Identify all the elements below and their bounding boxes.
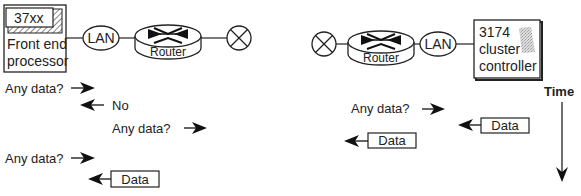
router-left: Router bbox=[135, 25, 201, 59]
front-end-processor: 37xx Front end processor bbox=[4, 5, 69, 72]
wan-endpoint-left-icon bbox=[227, 26, 251, 50]
right-msg-2-text: Data bbox=[491, 118, 519, 133]
controller-line2: cluster bbox=[479, 41, 521, 57]
arrow-right-icon bbox=[422, 103, 445, 115]
arrow-left-icon bbox=[344, 135, 368, 147]
arrow-left-icon bbox=[88, 173, 111, 185]
diagram-canvas: 37xx Front end processor LAN Router bbox=[0, 0, 581, 196]
time-label: Time bbox=[544, 84, 574, 99]
right-msg-3: Data bbox=[344, 133, 416, 148]
arrow-right-icon bbox=[184, 122, 207, 134]
lan-right-label: LAN bbox=[424, 36, 451, 52]
arrow-right-icon bbox=[71, 82, 95, 94]
router-left-label: Router bbox=[150, 45, 186, 59]
arrow-left-icon bbox=[80, 99, 104, 111]
arrow-right-icon bbox=[71, 152, 95, 164]
controller-line3: controller bbox=[479, 58, 537, 74]
cluster-controller: 3174 cluster controller bbox=[474, 20, 542, 80]
left-msg-5: Data bbox=[88, 171, 159, 187]
wan-endpoint-right-icon bbox=[312, 32, 336, 56]
fep-label-line1: Front end bbox=[7, 36, 67, 52]
left-msg-2-text: No bbox=[112, 98, 129, 113]
lan-right: LAN bbox=[420, 32, 456, 56]
router-right-label: Router bbox=[363, 51, 399, 65]
right-msg-2: Data bbox=[458, 118, 529, 133]
router-right: Router bbox=[348, 31, 414, 65]
left-msg-4-text: Any data? bbox=[5, 151, 64, 166]
arrow-left-icon bbox=[458, 119, 481, 131]
right-msg-3-text: Data bbox=[378, 133, 406, 148]
left-msg-1-text: Any data? bbox=[5, 81, 64, 96]
polling-diagram: 37xx Front end processor LAN Router bbox=[0, 0, 581, 196]
right-msg-1-text: Any data? bbox=[351, 101, 410, 116]
left-msg-3-text: Any data? bbox=[112, 121, 171, 136]
right-msg-1: Any data? bbox=[351, 101, 445, 116]
left-msg-4: Any data? bbox=[5, 151, 95, 166]
left-msg-3: Any data? bbox=[112, 121, 207, 136]
left-msg-1: Any data? bbox=[5, 81, 95, 96]
lan-left-label: LAN bbox=[87, 30, 114, 46]
left-msg-2: No bbox=[80, 98, 129, 113]
lan-left: LAN bbox=[83, 26, 119, 50]
fep-label-line2: processor bbox=[7, 53, 69, 69]
controller-line1: 3174 bbox=[479, 24, 510, 40]
left-msg-5-text: Data bbox=[121, 172, 149, 187]
fep-model-label: 37xx bbox=[14, 10, 44, 26]
